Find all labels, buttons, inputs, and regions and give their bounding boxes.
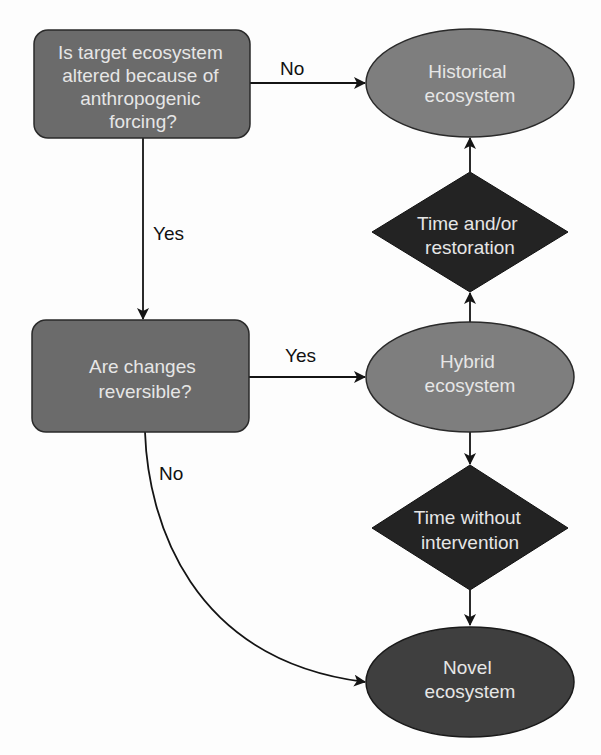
edge-label-yes-hybrid: Yes	[285, 345, 316, 366]
decision-box-changes-reversible: Are changes reversible?	[32, 320, 249, 432]
ellipse-hybrid-ecosystem: Hybrid ecosystem	[366, 322, 574, 432]
diamond-time-without-intervention: Time without intervention	[372, 465, 568, 590]
edge-label-yes-q2: Yes	[153, 223, 184, 244]
ellipse-historical-ecosystem: Historical ecosystem	[366, 29, 574, 137]
edge-label-no-novel: No	[159, 463, 183, 484]
flowchart-canvas: No Yes Yes No Is target ecosystem altere…	[0, 0, 601, 755]
ellipse-novel-ecosystem: Novel ecosystem	[366, 627, 574, 737]
flowchart-diagram: No Yes Yes No Is target ecosystem altere…	[0, 0, 601, 755]
decision-box-anthropogenic-forcing: Is target ecosystem altered because of a…	[34, 30, 250, 138]
diamond-time-and-or-restoration: Time and/or restoration	[372, 172, 568, 292]
edge-label-no-historical: No	[280, 58, 304, 79]
